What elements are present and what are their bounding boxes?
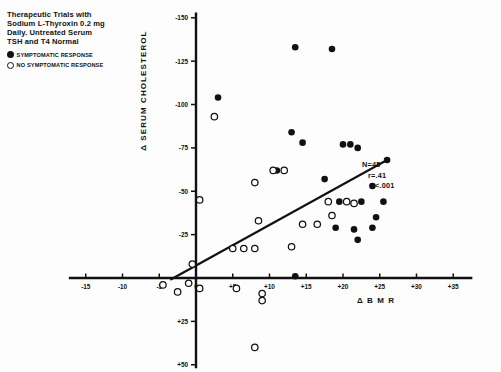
data-point-symptomatic bbox=[215, 94, 222, 101]
data-point-symptomatic bbox=[369, 224, 376, 231]
data-point-symptomatic bbox=[340, 141, 347, 148]
data-point-no-symptomatic bbox=[299, 221, 305, 227]
scatter-plot-svg: -15-10-50+5+10+15+20+25+30+35-150-125-10… bbox=[0, 0, 501, 372]
stat-n: N=45 bbox=[362, 160, 395, 171]
x-tick-label: +15 bbox=[301, 283, 312, 290]
data-point-symptomatic bbox=[358, 198, 365, 205]
y-tick-label: -25 bbox=[179, 231, 189, 238]
data-point-no-symptomatic bbox=[259, 290, 265, 296]
x-tick-label: +25 bbox=[374, 283, 385, 290]
data-point-no-symptomatic bbox=[230, 245, 236, 251]
data-point-no-symptomatic bbox=[196, 197, 202, 203]
data-point-no-symptomatic bbox=[196, 285, 202, 291]
stat-p: P<.001 bbox=[362, 181, 395, 192]
stats-annotation: N=45 r=.41 P<.001 bbox=[362, 160, 395, 192]
data-point-no-symptomatic bbox=[351, 200, 357, 206]
data-point-no-symptomatic bbox=[233, 285, 239, 291]
y-tick-label: +50 bbox=[177, 361, 188, 368]
data-point-symptomatic bbox=[292, 273, 299, 280]
x-tick-label: +10 bbox=[264, 283, 275, 290]
regression-line bbox=[170, 160, 387, 280]
x-tick-label: +20 bbox=[338, 283, 349, 290]
data-point-symptomatic bbox=[354, 145, 361, 152]
data-point-symptomatic bbox=[299, 139, 306, 146]
data-point-no-symptomatic bbox=[314, 221, 320, 227]
chart-figure: Therapeutic Trials with Sodium L-Thyroxi… bbox=[0, 0, 501, 372]
data-point-symptomatic bbox=[336, 198, 343, 205]
data-point-no-symptomatic bbox=[252, 245, 258, 251]
x-axis-title: Δ B M R bbox=[357, 296, 395, 305]
y-axis-title: Δ SERUM CHOLESTEROL bbox=[139, 30, 148, 150]
y-tick-label: -100 bbox=[175, 101, 188, 108]
data-point-no-symptomatic bbox=[325, 198, 331, 204]
data-point-symptomatic bbox=[354, 237, 361, 244]
data-point-no-symptomatic bbox=[160, 282, 166, 288]
data-point-no-symptomatic bbox=[329, 212, 335, 218]
data-point-no-symptomatic bbox=[174, 289, 180, 295]
data-point-no-symptomatic bbox=[259, 297, 265, 303]
data-point-symptomatic bbox=[347, 141, 354, 148]
x-tick-label: +30 bbox=[411, 283, 422, 290]
data-point-symptomatic bbox=[380, 198, 387, 205]
data-point-no-symptomatic bbox=[255, 218, 261, 224]
data-point-no-symptomatic bbox=[252, 344, 258, 350]
y-tick-label: -75 bbox=[179, 144, 189, 151]
y-tick-label: -150 bbox=[175, 14, 188, 21]
y-tick-label: -125 bbox=[175, 58, 188, 65]
y-tick-label: -50 bbox=[179, 188, 189, 195]
data-point-symptomatic bbox=[288, 129, 295, 136]
data-point-no-symptomatic bbox=[288, 244, 294, 250]
data-point-symptomatic bbox=[292, 44, 299, 51]
x-tick-label: -15 bbox=[81, 283, 91, 290]
data-point-no-symptomatic bbox=[211, 113, 217, 119]
x-tick-label: +35 bbox=[448, 283, 459, 290]
data-point-no-symptomatic bbox=[281, 167, 287, 173]
data-point-no-symptomatic bbox=[185, 280, 191, 286]
x-tick-label: -10 bbox=[118, 283, 128, 290]
data-point-symptomatic bbox=[321, 176, 328, 183]
data-point-no-symptomatic bbox=[189, 261, 195, 267]
data-point-symptomatic bbox=[351, 226, 358, 233]
data-point-symptomatic bbox=[332, 224, 339, 231]
data-point-no-symptomatic bbox=[343, 198, 349, 204]
data-point-no-symptomatic bbox=[270, 167, 276, 173]
data-point-no-symptomatic bbox=[252, 179, 258, 185]
plot-area: -15-10-50+5+10+15+20+25+30+35-150-125-10… bbox=[0, 0, 501, 372]
data-point-no-symptomatic bbox=[241, 245, 247, 251]
y-tick-label: +25 bbox=[177, 318, 188, 325]
stat-r: r=.41 bbox=[362, 171, 395, 182]
data-point-symptomatic bbox=[329, 46, 336, 53]
data-point-symptomatic bbox=[373, 214, 380, 221]
